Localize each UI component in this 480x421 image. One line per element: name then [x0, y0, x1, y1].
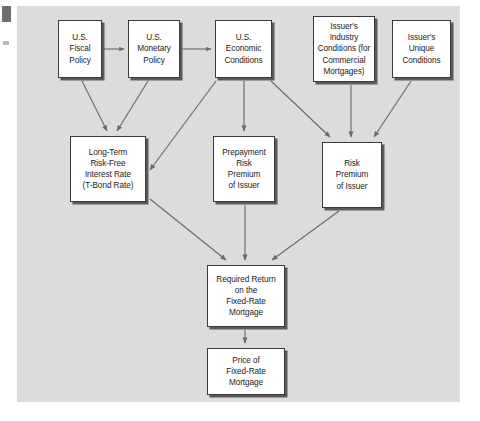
node-unique-conditions: Issuer's Unique Conditions: [392, 20, 451, 78]
edge-economic-longterm: [150, 81, 216, 170]
edge-unique-riskpremium: [374, 81, 411, 137]
edge-riskpremium-required: [272, 211, 339, 260]
node-economic-conditions: U.S. Economic Conditions: [215, 20, 272, 78]
node-risk-premium-of-issuer: Risk Premium of Issuer: [322, 142, 382, 208]
node-monetary-policy: U.S. Monetary Policy: [128, 20, 180, 78]
flow-diagram-figure: U.S. Fiscal Policy U.S. Monetary Policy …: [0, 0, 480, 421]
edge-fiscal-longterm: [82, 81, 107, 131]
node-industry-conditions: Issuer's Industry Conditions (for Commer…: [313, 16, 375, 82]
edge-longterm-required: [150, 199, 226, 260]
node-long-term-risk-free-rate: Long-Term Risk-Free Interest Rate (T-Bon…: [70, 136, 146, 202]
edge-monetary-longterm: [117, 81, 148, 131]
node-fiscal-policy: U.S. Fiscal Policy: [58, 20, 102, 78]
edge-economic-riskpremium: [271, 81, 330, 137]
node-price-fixed-rate-mortgage: Price of Fixed-Rate Mortgage: [207, 348, 285, 395]
node-prepayment-risk-premium: Prepayment Risk Premium of Issuer: [213, 136, 275, 202]
node-required-return: Required Return on the Fixed-Rate Mortga…: [207, 265, 285, 327]
